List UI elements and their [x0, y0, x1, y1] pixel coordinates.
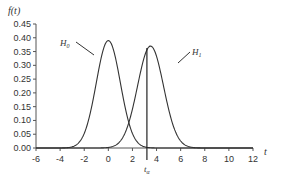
x-axis-label: t — [264, 146, 267, 157]
x-tick-label: -6 — [32, 154, 40, 164]
y-tick-label: 0.10 — [13, 115, 31, 125]
svg-text:H0: H0 — [59, 38, 70, 49]
curves — [36, 41, 253, 160]
x-tick-label: 6 — [178, 154, 183, 164]
y-tick-label: 0.25 — [13, 74, 31, 84]
x-tick-label: -2 — [80, 154, 88, 164]
h0-label: H0 — [59, 38, 70, 49]
y-tick-label: 0.05 — [13, 129, 31, 139]
h1-label: H1 — [191, 47, 202, 58]
x-tick-label: -4 — [56, 154, 64, 164]
y-tick-label: 0.40 — [13, 33, 31, 43]
y-tick-label: 0.20 — [13, 88, 31, 98]
x-tick-label: 0 — [106, 154, 111, 164]
x-tick-label: 8 — [202, 154, 207, 164]
axes: -6-4-20246810120.000.050.100.150.200.250… — [13, 19, 258, 164]
y-tick-label: 0.45 — [13, 19, 31, 29]
y-tick-label: 0.30 — [13, 60, 31, 70]
x-tick-label: 2 — [130, 154, 135, 164]
x-tick-label: 4 — [154, 154, 159, 164]
h1-leader — [178, 52, 190, 63]
x-tick-label: 10 — [224, 154, 234, 164]
y-tick-label: 0.35 — [13, 47, 31, 57]
x-tick-label: 12 — [248, 154, 258, 164]
svg-text:H1: H1 — [191, 47, 202, 58]
h0-leader — [76, 42, 94, 55]
chart: -6-4-20246810120.000.050.100.150.200.250… — [0, 0, 281, 185]
curve-h1 — [36, 46, 253, 148]
y-tick-label: 0.15 — [13, 102, 31, 112]
t-alpha-label: tα — [144, 164, 151, 175]
svg-text:tα: tα — [144, 164, 151, 175]
y-tick-label: 0.00 — [13, 143, 31, 153]
y-axis-label: f(t) — [8, 5, 21, 17]
